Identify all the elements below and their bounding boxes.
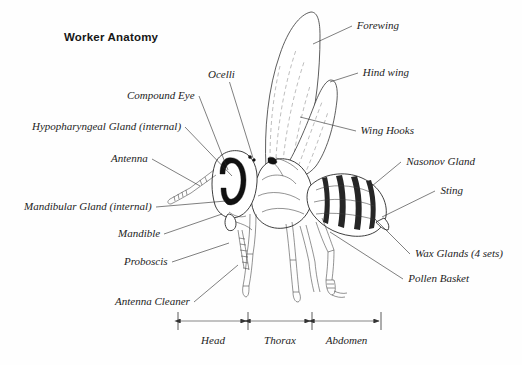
label-antenna-cleaner: Antenna Cleaner [115, 296, 190, 307]
leader-hypopharyngeal-gland [185, 127, 232, 176]
page-title: Worker Anatomy [64, 31, 158, 43]
label-mandible: Mandible [118, 228, 160, 239]
scale-label-head: Head [178, 334, 248, 346]
leader-ocelli [230, 82, 254, 158]
label-sting: Sting [440, 185, 463, 196]
leader-sting [382, 191, 435, 217]
proboscis-segments [239, 238, 249, 269]
label-mandibular-gland: Mandibular Gland (internal) [24, 201, 152, 212]
scale-bar [178, 312, 381, 330]
leader-mandible [164, 214, 222, 234]
pollen-basket-detail [327, 284, 335, 288]
label-hind-wing: Hind wing [363, 67, 409, 78]
leader-antenna [152, 159, 200, 186]
label-compound-eye: Compound Eye [127, 90, 195, 101]
label-antenna: Antenna [111, 153, 148, 164]
label-wax-glands: Wax Glands (4 sets) [415, 248, 503, 259]
label-hypopharyngeal-gland: Hypopharyngeal Gland (internal) [32, 121, 181, 132]
bee-illustration [0, 0, 522, 365]
label-proboscis: Proboscis [124, 256, 168, 267]
label-forewing: Forewing [357, 20, 399, 31]
label-pollen-basket: Pollen Basket [408, 273, 469, 284]
head-shape [212, 151, 257, 270]
leader-nasonov-gland [372, 162, 401, 186]
abdomen-shape [307, 174, 389, 236]
leader-antenna-cleaner [194, 265, 238, 302]
leader-hind-wing [330, 73, 358, 82]
leader-pollen-basket [330, 232, 403, 279]
leader-wax-glands [374, 218, 410, 254]
label-wing-hooks: Wing Hooks [361, 125, 414, 136]
label-ocelli: Ocelli [208, 69, 235, 80]
leader-compound-eye [199, 96, 228, 170]
anatomy-figure: Worker Anatomy Compound EyeHypopharyngea… [0, 0, 522, 365]
label-nasonov-gland: Nasonov Gland [406, 156, 475, 167]
scale-label-thorax: Thorax [248, 334, 312, 346]
leader-proboscis [172, 243, 229, 262]
scale-label-abdomen: Abdomen [312, 334, 381, 346]
antenna-shape [168, 170, 216, 204]
